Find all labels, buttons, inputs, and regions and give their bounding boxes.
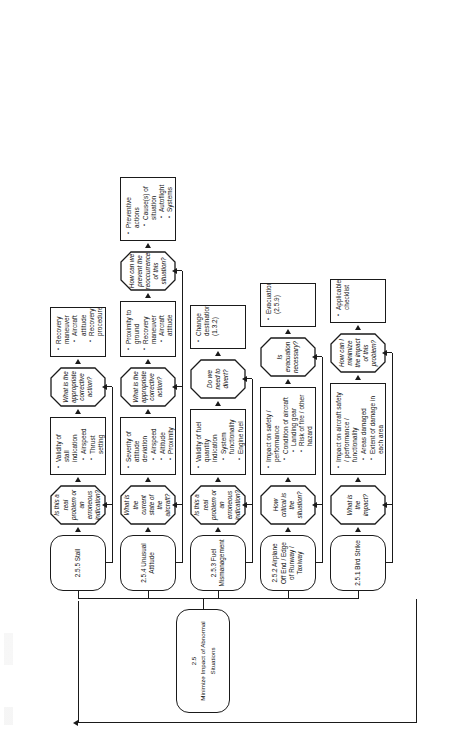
decision-label: Is evacuation necessary? [276, 341, 301, 373]
process-node[interactable]: Evacuation (2.5.9) [260, 283, 316, 327]
feedback-drop [385, 562, 392, 563]
decision-node[interactable]: What is the appropriate corrective actio… [120, 367, 176, 407]
process-list-item: Change destination (1.3.2) [195, 311, 220, 336]
feedback-riser [246, 504, 252, 505]
decision-label: What is the impact? [346, 490, 371, 520]
process-content: Change destination (1.3.2) [195, 311, 220, 343]
process-content: Applicable checklist [335, 285, 351, 317]
process-content: Evacuation (2.5.9) [265, 289, 281, 321]
arrow-head [145, 409, 151, 414]
branch-head-label: 2.5.1 Bird Strike [354, 540, 362, 585]
process-list-item: Airspeed [80, 423, 88, 454]
process-lead-label: Impact on aircraft safety / performance … [335, 389, 360, 462]
decision-label: How can I minimize the impact of this pr… [338, 338, 379, 368]
process-list: Validity of stall indicationAirspeedThru… [55, 423, 106, 469]
decision-node[interactable]: How can we prevent the reoccurrence of t… [120, 251, 176, 291]
process-list-item: Proximity to ground [167, 423, 176, 454]
process-content: Impact on aircraft safety / performance … [335, 389, 386, 469]
process-lead-label: Validity of stall indication [55, 423, 80, 462]
branch-head-2.5.4[interactable]: 2.5.4 Unusual Attitude [120, 535, 176, 591]
feedback-riser [386, 352, 392, 353]
decision-label: What is the appropriate corrective actio… [62, 371, 95, 403]
process-sublist: Landing gearRisk of fire / other hazard [290, 393, 315, 454]
process-node[interactable]: Validity of fuel quantity indicationSyst… [190, 409, 246, 475]
decision-label: What is the appropriate corrective actio… [132, 371, 165, 403]
process-node[interactable]: Validity of stall indicationAirspeedThru… [50, 417, 106, 475]
process-list-item: Areas damaged [360, 389, 368, 454]
process-list-item: System functionality [220, 415, 236, 454]
arrow-head [145, 243, 151, 248]
decision-node[interactable]: Do we need to divert? [190, 359, 246, 399]
feedback-riser [176, 386, 182, 387]
process-list: Recovery maneuverAircraft attitudeRecove… [55, 313, 104, 351]
decision-node[interactable]: What is the current state of the aircraf… [120, 485, 176, 525]
process-node[interactable]: Impact on aircraft safety / performance … [330, 383, 386, 475]
process-list: Severity of attitude deviationAirspeedAl… [125, 423, 176, 469]
root-node-label: 2.5Minimize Impact of Abnormal Situation… [189, 614, 217, 708]
decision-node[interactable]: What is the appropriate corrective actio… [50, 367, 106, 407]
process-node[interactable]: Impact on safety / performanceCondition … [260, 387, 316, 475]
feedback-rail [182, 271, 183, 563]
arrow-head [145, 527, 151, 532]
decision-node[interactable]: Is evacuation necessary? [260, 337, 316, 377]
branch-stub-line [218, 591, 219, 599]
arrow-head [285, 527, 291, 532]
process-content: Preventive actionsCause(s) of situationA… [125, 183, 176, 235]
feedback-drop [105, 562, 112, 563]
arrow-head [75, 477, 81, 482]
process-list: Preventive actionsCause(s) of situationA… [125, 183, 176, 235]
process-content: Proximity to groundRecovery maneuverAirc… [125, 307, 176, 351]
feedback-riser [246, 378, 252, 379]
process-list: Proximity to groundRecovery maneuverAirc… [125, 307, 176, 351]
process-list: Evacuation (2.5.9) [265, 289, 281, 321]
decision-node[interactable]: What is the impact? [330, 485, 386, 525]
process-list-item: Applicable checklist [335, 285, 351, 310]
branch-head-label: 2.5.5 Stall [74, 549, 82, 577]
decision-node[interactable]: Is this a real problem or an erroneous i… [190, 485, 246, 525]
process-content: Validity of stall indicationAirspeedThru… [55, 423, 106, 469]
process-sublist-item: Risk of fire / other hazard [298, 393, 314, 446]
feedback-rail [392, 353, 393, 563]
decision-node[interactable]: Is this a real problem or an erroneous i… [50, 485, 106, 525]
arrow-head [285, 329, 291, 334]
root-node-title: Minimize Impact of Abnormal Situations [198, 614, 217, 708]
feedback-riser [386, 504, 392, 505]
process-node[interactable]: Severity of attitude deviationAirspeedAl… [120, 417, 176, 475]
branch-stub-line [358, 591, 359, 599]
process-sublist-item: Landing gear [290, 393, 298, 446]
process-list-item: Extent of damage in each area [369, 389, 385, 454]
process-list-item: Recovery maneuverAircraft attitudeRecove… [55, 313, 104, 344]
feedback-drop [315, 562, 322, 563]
arrow-head [75, 359, 81, 364]
process-node[interactable]: Applicable checklist [330, 279, 386, 323]
rotated-diagram-stage: 2.5Minimize Impact of Abnormal Situation… [0, 0, 457, 731]
process-list-item: Evacuation (2.5.9) [265, 289, 281, 314]
arrow-head [215, 351, 221, 356]
process-node[interactable]: Recovery maneuverAircraft attitudeRecove… [50, 307, 106, 357]
decision-node[interactable]: How can I minimize the impact of this pr… [330, 333, 386, 373]
global-return-line [78, 722, 416, 723]
feedback-riser [176, 270, 182, 271]
process-node[interactable]: Proximity to groundRecovery maneuverAirc… [120, 301, 176, 357]
decision-label: Is this a real problem or an erroneous i… [193, 490, 242, 520]
process-node[interactable]: Preventive actionsCause(s) of situationA… [120, 177, 176, 241]
branch-head-2.5.1[interactable]: 2.5.1 Bird Strike [330, 535, 386, 591]
process-list: Applicable checklist [335, 285, 351, 317]
process-list-item: Engine fuel flow/fuel used history [237, 415, 246, 454]
decision-node[interactable]: How critical is the situation? [260, 485, 316, 525]
process-list: Validity of fuel quantity indicationSyst… [195, 415, 246, 469]
process-list-item: Condition of passengersInjuriesEmergenci… [315, 393, 316, 454]
branch-head-2.5.2[interactable]: 2.5.2 Airplane Off End / Edge of Runway … [260, 535, 316, 591]
process-sublist-item: Autoflight [158, 183, 166, 212]
branch-head-2.5.3[interactable]: 2.5.3 Fuel Mismanagement [190, 535, 246, 591]
process-node[interactable]: Change destination (1.3.2) [190, 305, 246, 349]
arrow-head [145, 359, 151, 364]
process-lead-label: Validity of fuel quantity indication [195, 415, 220, 462]
root-node-number: 2.5 [189, 614, 198, 708]
feedback-rail [112, 387, 113, 563]
decision-label: Do we need to divert? [206, 364, 231, 394]
branch-head-2.5.5[interactable]: 2.5.5 Stall [50, 535, 106, 591]
arrow-head [285, 477, 291, 482]
process-list-item: Cause(s) of situationAutoflightSystems s… [142, 183, 176, 220]
feedback-riser [316, 504, 322, 505]
